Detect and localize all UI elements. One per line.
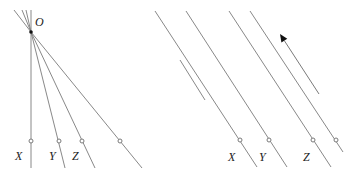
diagram-canvas: XYZO XYZ	[0, 0, 358, 175]
parallel-line-x	[155, 11, 257, 167]
parallel-line-y	[186, 11, 287, 167]
point-marker-icon	[238, 138, 242, 142]
point-marker-icon	[267, 138, 271, 142]
left-panel-converging-lines: XYZO	[14, 10, 142, 168]
label-x: X	[227, 150, 236, 164]
partial-parallel-line	[180, 60, 205, 100]
right-panel-parallel-lines: XYZ	[155, 11, 343, 167]
label-z: Z	[72, 149, 79, 163]
label-x: X	[14, 149, 23, 163]
point-marker-icon	[334, 138, 338, 142]
point-marker-icon	[29, 139, 33, 143]
origin-label: O	[35, 15, 44, 29]
origin-point-icon	[29, 30, 33, 34]
direction-arrow-shaft	[284, 41, 319, 94]
label-y: Y	[259, 150, 267, 164]
ray-line-z	[31, 32, 95, 168]
arrow-head-icon	[280, 34, 287, 43]
label-y: Y	[49, 149, 57, 163]
point-marker-icon	[80, 139, 84, 143]
point-marker-icon	[311, 138, 315, 142]
point-marker-icon	[118, 139, 122, 143]
point-marker-icon	[57, 139, 61, 143]
label-z: Z	[303, 150, 310, 164]
